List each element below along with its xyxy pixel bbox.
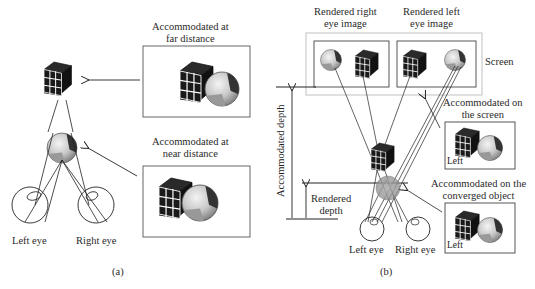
on-screen-inset-title: Accommodated on the screen <box>443 97 523 121</box>
right-eye-b-label: Right eye <box>395 244 436 256</box>
on-object-title-line2: converged object <box>431 190 526 202</box>
right-eye-image-title: Rendered right eye image <box>314 6 377 30</box>
caption-a: (a) <box>112 266 124 278</box>
near-inset-title-line2: near distance <box>152 148 229 160</box>
right-eye-icon <box>78 187 114 223</box>
left-eye-b-label: Left eye <box>349 244 384 256</box>
panel-b <box>276 33 515 253</box>
rendered-depth-label: Rendered depth <box>311 193 351 217</box>
right-eye-label: Right eye <box>76 235 117 247</box>
on-object-title-line1: Accommodated on the <box>431 178 526 190</box>
accommodated-depth-label: Accommodated depth <box>275 105 286 197</box>
caption-b: (b) <box>380 266 392 278</box>
accommodated-cube-icon <box>371 143 394 172</box>
far-inset-title-line1: Accommodated at <box>152 21 229 33</box>
far-inset-title: Accommodated at far distance <box>152 21 229 45</box>
left-eye-image-title: Rendered left eye image <box>403 6 460 30</box>
left-eye-label: Left eye <box>12 235 47 247</box>
left-eye-icon <box>12 187 48 223</box>
on-screen-title-line2: the screen <box>443 109 523 121</box>
near-arrow <box>88 148 137 176</box>
left-eye-image-title-line1: Rendered left <box>403 6 460 18</box>
right-eye-image-title-line2: eye image <box>314 18 377 30</box>
on-object-inset-tag: Left <box>447 240 463 250</box>
near-inset-title: Accommodated at near distance <box>152 136 229 160</box>
near-inset-title-line1: Accommodated at <box>152 136 229 148</box>
rendered-depth-line1: Rendered <box>311 193 351 205</box>
left-eye-image-title-line2: eye image <box>403 18 460 30</box>
far-cube-icon <box>44 62 72 96</box>
on-object-inset-title: Accommodated on the converged object <box>431 178 526 202</box>
on-screen-title-line1: Accommodated on <box>443 97 523 109</box>
left-eye-b-icon <box>360 217 384 241</box>
converged-ball-icon <box>376 176 400 200</box>
on-screen-inset-tag: Left <box>447 156 463 166</box>
right-eye-b-icon <box>406 217 430 241</box>
far-inset-title-line2: far distance <box>152 33 229 45</box>
screen-label: Screen <box>485 56 514 68</box>
rendered-depth-line2: depth <box>311 205 351 217</box>
right-eye-image-title-line1: Rendered right <box>314 6 377 18</box>
